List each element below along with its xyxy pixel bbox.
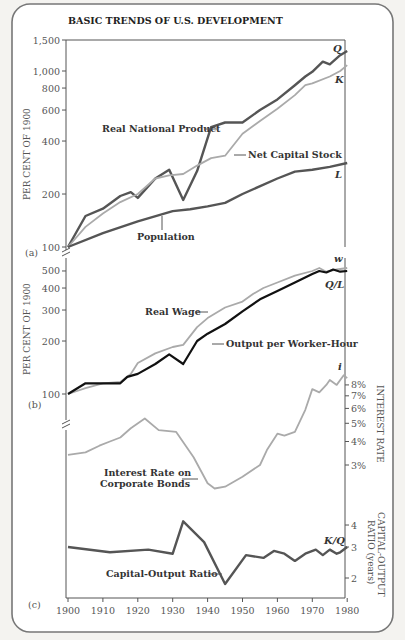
symbol-i: i xyxy=(338,361,342,372)
ylabel-ratio-2: RATIO (years) xyxy=(366,520,376,584)
ylabel-panel-b: PER CENT OF 1900 xyxy=(22,283,32,375)
ytick-label: 400 xyxy=(42,283,60,294)
ytick-label: 1,000 xyxy=(33,66,60,77)
xtick-label: 1910 xyxy=(91,605,115,616)
xtick-label: 1950 xyxy=(230,605,254,616)
xtick-label: 1940 xyxy=(196,605,220,616)
panel-b-tag: (b) xyxy=(28,399,42,410)
ytick-label: 500 xyxy=(42,265,60,276)
ytick-label: 800 xyxy=(42,83,60,94)
ytick-label: 100 xyxy=(42,389,60,400)
ytick-label: 600 xyxy=(42,105,60,116)
label-interest-rate-1: Interest Rate on xyxy=(104,467,191,478)
xtick-label: 1970 xyxy=(300,605,324,616)
ylabel-ratio-1: CAPITAL-OUTPUT xyxy=(376,512,386,596)
panel-c-tag: (c) xyxy=(28,599,41,610)
symbol-K: K xyxy=(334,74,345,85)
ytick-label: 4% xyxy=(351,436,366,447)
ytick-label: 4 xyxy=(351,520,357,531)
symbol-Q: Q xyxy=(333,43,342,54)
ylabel-panel-a: PER CENT OF 1900 xyxy=(22,108,32,200)
ytick-label: 1,500 xyxy=(33,35,60,46)
ytick-label: 7% xyxy=(351,390,366,401)
ytick-label: 5% xyxy=(351,418,366,429)
symbol-QL: Q/L xyxy=(325,279,344,290)
label-real-national-product: Real National Product xyxy=(102,123,221,134)
label-output-per-worker-hour: Output per Worker-Hour xyxy=(226,338,359,349)
ytick-label: 3 xyxy=(351,542,357,553)
ytick-label: 300 xyxy=(42,305,60,316)
ytick-label: 6% xyxy=(351,403,366,414)
ytick-label: 2 xyxy=(351,573,357,584)
panel-a-tag: (a) xyxy=(25,247,38,258)
label-net-capital-stock: Net Capital Stock xyxy=(248,149,342,160)
ytick-label: 3% xyxy=(351,460,366,471)
xtick-label: 1900 xyxy=(56,605,80,616)
ytick-label: 400 xyxy=(42,136,60,147)
ytick-label: 8% xyxy=(351,379,366,390)
symbol-L: L xyxy=(334,169,342,180)
basic-trends-chart: BASIC TRENDS OF U.S. DEVELOPMENT 1002004… xyxy=(0,0,405,640)
label-population: Population xyxy=(137,231,195,242)
ytick-label: 200 xyxy=(42,336,60,347)
label-real-wage: Real Wage xyxy=(145,306,201,317)
label-capital-output-ratio: Capital-Output Ratio xyxy=(106,568,217,579)
xtick-label: 1980 xyxy=(335,605,359,616)
xtick-label: 1920 xyxy=(126,605,150,616)
chart-title: BASIC TRENDS OF U.S. DEVELOPMENT xyxy=(68,15,283,26)
xtick-label: 1960 xyxy=(265,605,289,616)
symbol-w: w xyxy=(334,253,343,264)
label-interest-rate-2: Corporate Bonds xyxy=(100,478,190,489)
ytick-label: 200 xyxy=(42,189,60,200)
symbol-KQ: K/Q xyxy=(323,535,345,546)
ylabel-interest: INTEREST RATE xyxy=(375,385,385,463)
xtick-label: 1930 xyxy=(161,605,185,616)
ytick-label: 100 xyxy=(42,242,60,253)
